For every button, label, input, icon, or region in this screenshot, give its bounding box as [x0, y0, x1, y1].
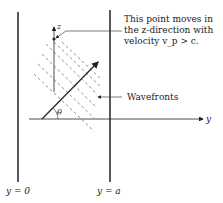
annotation-line1: This point moves in [124, 14, 213, 24]
annotation-leader [56, 31, 122, 38]
wave-vector [42, 62, 98, 119]
annotation-line3: velocity v_p > c. [124, 36, 199, 46]
wall-right-label: y = a [97, 186, 121, 196]
wavefronts-label: Wavefronts [127, 92, 178, 102]
z-axis-label: z [57, 22, 61, 32]
angle-label: θ [57, 108, 62, 118]
annotation-line2: the z-direction with [124, 25, 213, 35]
moving-point [52, 37, 55, 40]
y-axis-label: y [206, 114, 211, 124]
wavefronts [34, 42, 102, 131]
wall-left-label: y = 0 [6, 186, 30, 196]
